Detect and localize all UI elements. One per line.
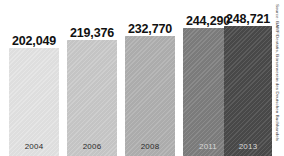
bar-category-label-2: 2008 bbox=[141, 142, 160, 151]
bar-category-label-3: 2011 bbox=[199, 142, 217, 151]
bar-group-0: 202,049 2004 bbox=[9, 0, 59, 156]
bar-value-label-1: 219,376 bbox=[70, 26, 114, 40]
source-note: Source: BAMF/Destatis, Börsenverein des … bbox=[269, 0, 283, 156]
bar-chart: 202,049 2004 219,376 2006 232,770 2008 2… bbox=[0, 0, 284, 156]
bar-category-label-4: 2013 bbox=[239, 142, 258, 151]
bar-2[interactable] bbox=[125, 36, 175, 156]
bar-4[interactable] bbox=[224, 26, 272, 156]
bar-group-4: 248,721 2013 bbox=[224, 0, 272, 156]
plot-area: 202,049 2004 219,376 2006 232,770 2008 2… bbox=[0, 0, 268, 156]
bar-group-1: 219,376 2006 bbox=[67, 0, 117, 156]
bar-category-label-0: 2004 bbox=[25, 142, 44, 151]
bar-value-label-0: 202,049 bbox=[12, 34, 56, 48]
bar-1[interactable] bbox=[67, 40, 117, 156]
bar-0[interactable] bbox=[9, 48, 59, 156]
bar-group-2: 232,770 2008 bbox=[125, 0, 175, 156]
bar-category-label-1: 2006 bbox=[83, 142, 102, 151]
bar-value-label-4: 248,721 bbox=[226, 12, 270, 26]
source-text: Source: BAMF/Destatis, Börsenverein des … bbox=[275, 4, 280, 141]
bar-value-label-2: 232,770 bbox=[128, 22, 172, 36]
